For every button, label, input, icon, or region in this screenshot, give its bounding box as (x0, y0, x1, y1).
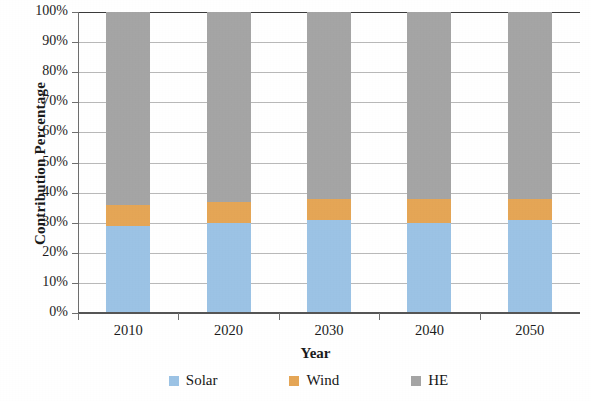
x-axis-tick (279, 313, 280, 320)
bar-segment-wind[interactable] (207, 202, 251, 223)
y-axis-tick-label: 30% (0, 214, 68, 230)
legend-swatch-icon (289, 376, 299, 386)
bar-segment-wind[interactable] (307, 199, 351, 220)
x-axis-tick-label: 2040 (384, 322, 474, 339)
chart-figure: Contribution Percentage 100%90%80%70%60%… (0, 0, 591, 401)
legend-label: Wind (306, 372, 339, 389)
y-axis-tick-label: 40% (0, 184, 68, 200)
y-axis-tick-label: 100% (0, 3, 68, 19)
x-axis-tick-label: 2050 (485, 322, 575, 339)
y-axis-tick-label: 20% (0, 244, 68, 260)
bar-segment-solar[interactable] (307, 220, 351, 313)
x-axis-tick (178, 313, 179, 320)
y-axis-tick-label: 80% (0, 63, 68, 79)
bar-stack[interactable] (407, 12, 451, 313)
x-axis-tick (480, 313, 481, 320)
bar-segment-he[interactable] (508, 12, 552, 199)
legend-item-he[interactable]: HE (411, 372, 448, 389)
y-axis-tick-label: 10% (0, 274, 68, 290)
bar-stack[interactable] (508, 12, 552, 313)
x-axis-tick-label: 2010 (83, 322, 173, 339)
legend-swatch-icon (411, 376, 421, 386)
legend-label: HE (428, 372, 448, 389)
bar-segment-solar[interactable] (407, 223, 451, 313)
bar-segment-solar[interactable] (207, 223, 251, 313)
legend-swatch-icon (169, 376, 179, 386)
y-axis-tick-label: 70% (0, 93, 68, 109)
x-axis-title: Year (0, 345, 591, 362)
chart-legend: SolarWindHE (0, 372, 591, 389)
bar-segment-solar[interactable] (508, 220, 552, 313)
x-axis-tick (78, 313, 79, 320)
y-axis-tick-label: 60% (0, 123, 68, 139)
bar-segment-he[interactable] (407, 12, 451, 199)
legend-item-solar[interactable]: Solar (169, 372, 218, 389)
bar-segment-wind[interactable] (407, 199, 451, 223)
bar-segment-he[interactable] (106, 12, 150, 205)
bar-segment-he[interactable] (207, 12, 251, 202)
x-axis-tick (379, 313, 380, 320)
x-axis-line (78, 312, 580, 314)
x-axis-tick-label: 2030 (284, 322, 374, 339)
legend-item-wind[interactable]: Wind (289, 372, 339, 389)
bar-stack[interactable] (207, 12, 251, 313)
y-axis-tick-label: 0% (0, 304, 68, 320)
bar-segment-he[interactable] (307, 12, 351, 199)
bar-segment-wind[interactable] (106, 205, 150, 226)
bar-segment-wind[interactable] (508, 199, 552, 220)
y-axis-tick-label: 90% (0, 33, 68, 49)
y-axis-tick-label: 50% (0, 154, 68, 170)
bars-layer (78, 12, 580, 313)
legend-label: Solar (186, 372, 218, 389)
bar-stack[interactable] (106, 12, 150, 313)
x-axis-tick-label: 2020 (184, 322, 274, 339)
bar-stack[interactable] (307, 12, 351, 313)
bar-segment-solar[interactable] (106, 226, 150, 313)
